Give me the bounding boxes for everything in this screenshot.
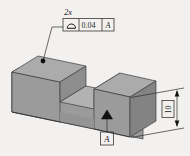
engineering-drawing: 0.04 A 2x A 1 — [0, 0, 190, 156]
dimension-arrow-bottom — [175, 121, 180, 128]
drawing-canvas: 0.04 A 2x A 1 — [0, 0, 190, 156]
datum-label: A — [103, 134, 110, 144]
basic-dimension-group: 10 — [162, 101, 174, 118]
dimension-arrow-top — [175, 90, 180, 97]
fcf-leader-line — [43, 27, 63, 61]
quantity-note: 2x — [64, 7, 72, 17]
slotted-block-solid — [12, 56, 156, 139]
fcf-leader-dot — [41, 59, 46, 64]
right-boss-front-face — [94, 89, 130, 137]
dimension-value: 10 — [164, 106, 173, 114]
fcf-datum-reference: A — [105, 21, 111, 30]
feature-control-frame[interactable]: 0.04 A — [63, 19, 114, 32]
fcf-tolerance-value: 0.04 — [82, 21, 96, 30]
fcf-leader — [41, 27, 63, 63]
profile-of-a-surface-symbol — [67, 24, 75, 28]
